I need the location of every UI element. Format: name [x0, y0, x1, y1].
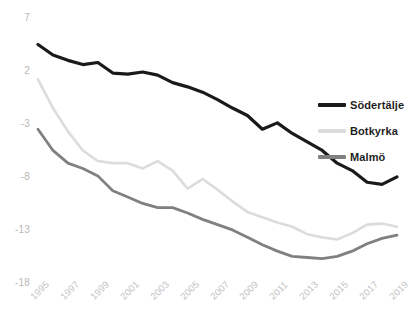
- legend-item: Malmö: [318, 144, 404, 170]
- legend-item-label: Södertälje: [350, 99, 404, 111]
- chart-container: 72-3-8-13-18 199519971999200120032005200…: [0, 0, 418, 333]
- legend-item-label: Botkyrka: [350, 125, 398, 137]
- legend-item: Södertälje: [318, 92, 404, 118]
- legend-color-swatch: [318, 129, 346, 133]
- legend-item-label: Malmö: [350, 151, 385, 163]
- legend-item: Botkyrka: [318, 118, 404, 144]
- y-axis-tick-label: -3: [4, 118, 30, 129]
- chart-legend: SödertäljeBotkyrkaMalmö: [318, 92, 404, 170]
- y-axis-tick-label: -8: [4, 171, 30, 182]
- legend-color-swatch: [318, 155, 346, 159]
- y-axis-tick-label: 2: [4, 65, 30, 76]
- y-axis-tick-label: -18: [4, 277, 30, 288]
- legend-color-swatch: [318, 103, 346, 107]
- y-axis-tick-label: 7: [4, 12, 30, 23]
- y-axis-tick-label: -13: [4, 224, 30, 235]
